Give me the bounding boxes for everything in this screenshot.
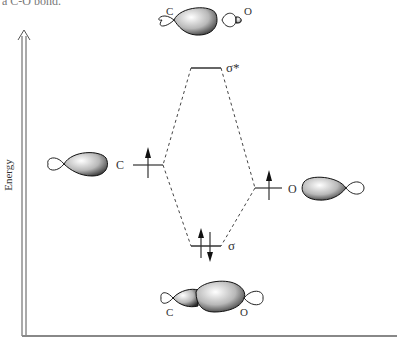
spin-up-arrow-icon (145, 147, 151, 158)
bonding-c-label: C (166, 306, 173, 318)
spin-down-arrow-icon (207, 252, 213, 262)
antibonding-c-label: C (166, 5, 173, 17)
sigma-label: σ (228, 238, 235, 253)
correlation-lines (163, 68, 255, 246)
oxygen-label: O (288, 182, 297, 196)
mo-diagram: Energy C O σ* C O (0, 0, 397, 341)
energy-axis-label: Energy (2, 159, 14, 191)
antibonding-o-label: O (244, 5, 252, 17)
bonding-o-label: O (240, 306, 248, 318)
carbon-sp-orbital-drawing (48, 153, 108, 176)
sigma-level (191, 228, 221, 262)
sigma-star-label: σ* (226, 60, 240, 75)
oxygen-sp-orbital-drawing (302, 177, 364, 200)
spin-up-arrow-icon (198, 228, 204, 238)
oxygen-level (255, 170, 282, 200)
spin-up-arrow-icon (266, 170, 272, 181)
carbon-level (133, 147, 163, 178)
carbon-label: C (116, 158, 124, 172)
